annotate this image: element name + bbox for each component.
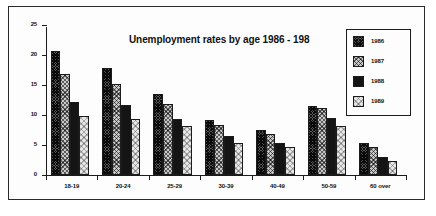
x-axis-label: 50-59 — [303, 183, 354, 189]
bar — [79, 116, 89, 175]
legend-swatch-icon — [353, 76, 364, 87]
bar — [102, 68, 112, 175]
legend-swatch-icon — [353, 96, 364, 107]
bar — [214, 125, 224, 175]
chart-title: Unemployment rates by age 1986 - 198 — [129, 34, 351, 45]
bar — [317, 108, 327, 175]
bar — [121, 105, 131, 175]
bar — [256, 130, 266, 175]
y-axis-tick — [42, 25, 47, 26]
bar — [70, 102, 80, 175]
bar — [359, 143, 369, 175]
x-axis-line — [46, 175, 406, 176]
bar — [327, 118, 337, 175]
y-axis-tick — [42, 55, 47, 56]
bar — [369, 147, 379, 175]
x-axis-tick — [149, 175, 150, 180]
legend-swatch-icon — [353, 36, 364, 47]
bar — [153, 94, 163, 175]
bar — [266, 134, 276, 175]
bar — [182, 126, 192, 175]
y-axis-line — [46, 27, 47, 177]
bar — [112, 84, 122, 175]
bar — [131, 119, 141, 175]
bar — [275, 143, 285, 175]
y-axis-tick — [42, 85, 47, 86]
bar — [205, 120, 215, 175]
bar — [173, 119, 183, 175]
legend-label: 1987 — [371, 58, 384, 64]
y-axis-label: 25 — [11, 21, 37, 27]
legend-label: 1988 — [371, 78, 384, 84]
bar — [388, 161, 398, 175]
x-axis-tick — [46, 175, 47, 180]
x-axis-tick — [200, 175, 201, 180]
y-axis-tick — [42, 145, 47, 146]
x-axis-tick — [355, 175, 356, 180]
legend-label: 1989 — [371, 98, 384, 104]
bar — [234, 143, 244, 175]
y-axis-label: 0 — [11, 171, 37, 177]
y-axis-label: 10 — [11, 111, 37, 117]
bar — [378, 157, 388, 175]
chart-legend: 1986198719881989 — [346, 29, 411, 116]
y-axis-label: 15 — [11, 81, 37, 87]
chart-frame: Unemployment rates by age 1986 - 198 051… — [8, 6, 425, 200]
y-axis-tick — [42, 115, 47, 116]
bar — [163, 104, 173, 175]
x-axis-label: 60 over — [355, 183, 406, 189]
legend-label: 1986 — [371, 38, 384, 44]
bar — [224, 136, 234, 175]
y-axis-label: 20 — [11, 51, 37, 57]
y-axis-label: 5 — [11, 141, 37, 147]
bar — [51, 51, 61, 175]
x-axis-label: 20-24 — [97, 183, 148, 189]
bar — [60, 74, 70, 175]
x-axis-label: 40-49 — [252, 183, 303, 189]
x-axis-label: 30-39 — [200, 183, 251, 189]
x-axis-tick — [406, 175, 407, 180]
x-axis-label: 25-29 — [149, 183, 200, 189]
bar — [285, 147, 295, 175]
x-axis-label: 18-19 — [46, 183, 97, 189]
x-axis-tick — [252, 175, 253, 180]
x-axis-tick — [97, 175, 98, 180]
bar — [308, 106, 318, 175]
bar — [336, 126, 346, 175]
legend-swatch-icon — [353, 56, 364, 67]
x-axis-tick — [303, 175, 304, 180]
